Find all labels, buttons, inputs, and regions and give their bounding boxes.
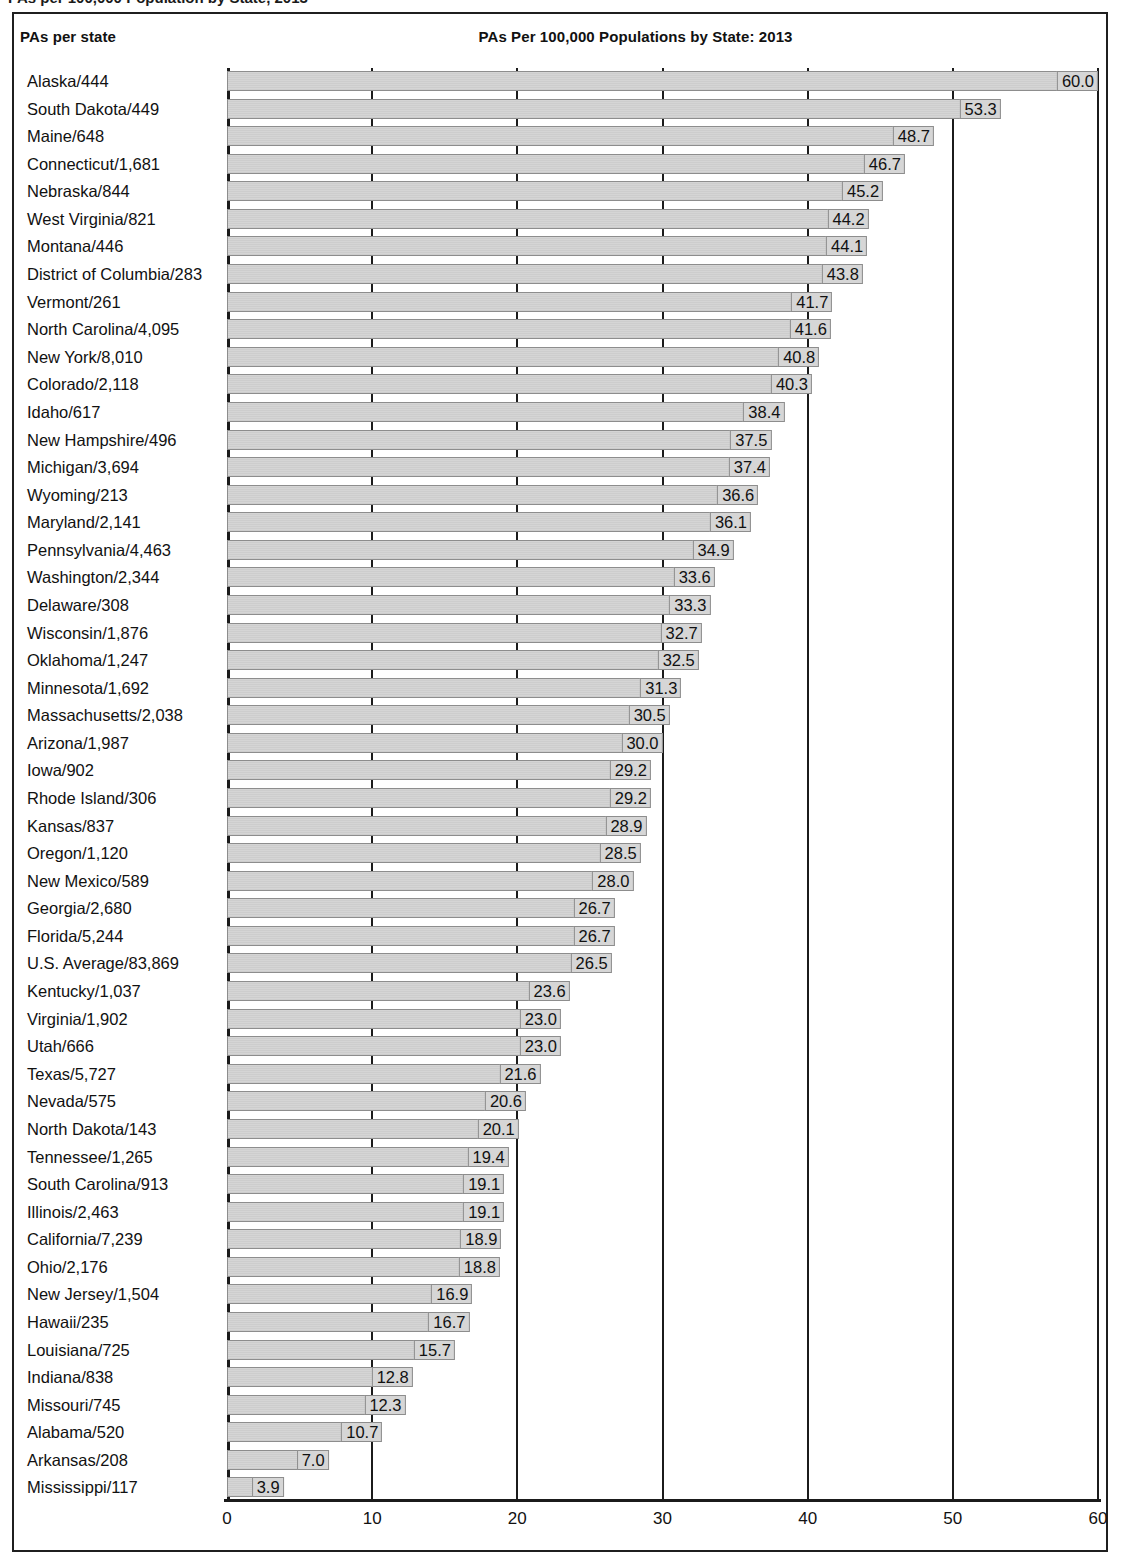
bar-value-label: 12.8 <box>372 1367 413 1387</box>
category-label: Indiana/838 <box>27 1364 113 1392</box>
bar-row: 28.0 <box>227 868 1098 896</box>
bar-row: 28.5 <box>227 840 1098 868</box>
bar-row: 53.3 <box>227 96 1098 124</box>
bar <box>227 595 710 615</box>
bar-row: 30.5 <box>227 702 1098 730</box>
bar-row: 20.6 <box>227 1088 1098 1116</box>
bar-value-label: 53.3 <box>960 99 1001 119</box>
bar-rows: 60.053.348.746.745.244.244.143.841.741.6… <box>227 68 1098 1502</box>
bar-row: 19.1 <box>227 1171 1098 1199</box>
category-label: District of Columbia/283 <box>27 261 202 289</box>
bar-row: 16.7 <box>227 1309 1098 1337</box>
bar <box>227 981 570 1001</box>
bar <box>227 430 771 450</box>
bar <box>227 540 734 560</box>
bar-row: 33.6 <box>227 564 1098 592</box>
bar-row: 23.0 <box>227 1033 1098 1061</box>
bar-row: 29.2 <box>227 757 1098 785</box>
category-label: Hawaii/235 <box>27 1309 109 1337</box>
bar-value-label: 38.4 <box>743 402 784 422</box>
bar-row: 10.7 <box>227 1419 1098 1447</box>
category-label: Ohio/2,176 <box>27 1254 108 1282</box>
bar <box>227 788 651 808</box>
category-label: Kentucky/1,037 <box>27 978 141 1006</box>
category-label: Wyoming/213 <box>27 482 128 510</box>
bar <box>227 760 651 780</box>
bar <box>227 926 615 946</box>
category-label: Kansas/837 <box>27 813 114 841</box>
category-label: Alabama/520 <box>27 1419 124 1447</box>
bar-value-label: 15.7 <box>414 1340 455 1360</box>
category-label: Washington/2,344 <box>27 564 159 592</box>
bar <box>227 1147 509 1167</box>
bar-value-label: 19.4 <box>467 1147 508 1167</box>
bar-row: 19.4 <box>227 1144 1098 1172</box>
category-label: Oklahoma/1,247 <box>27 647 148 675</box>
bar-row: 21.6 <box>227 1061 1098 1089</box>
category-label: Virginia/1,902 <box>27 1006 128 1034</box>
x-tick-label: 50 <box>943 1509 962 1529</box>
bar-value-label: 43.8 <box>822 264 863 284</box>
bar <box>227 71 1098 91</box>
bar-value-label: 32.7 <box>661 623 702 643</box>
category-label-column: Alaska/444South Dakota/449Maine/648Conne… <box>0 68 227 1502</box>
category-label: Montana/446 <box>27 233 123 261</box>
bar <box>227 99 1001 119</box>
bar <box>227 347 819 367</box>
bar <box>227 650 699 670</box>
bar-row: 15.7 <box>227 1337 1098 1365</box>
bar <box>227 1091 526 1111</box>
bar-row: 18.9 <box>227 1226 1098 1254</box>
category-label: Iowa/902 <box>27 757 94 785</box>
bar-row: 40.3 <box>227 371 1098 399</box>
bar-row: 48.7 <box>227 123 1098 151</box>
x-tick-label: 20 <box>508 1509 527 1529</box>
bar-value-label: 46.7 <box>864 154 905 174</box>
x-tick-label: 10 <box>363 1509 382 1529</box>
bar <box>227 154 905 174</box>
category-label: Arkansas/208 <box>27 1447 128 1475</box>
x-axis-line <box>224 1499 1101 1502</box>
bar <box>227 953 612 973</box>
bar-row: 34.9 <box>227 537 1098 565</box>
category-label: Vermont/261 <box>27 289 121 317</box>
category-label: North Carolina/4,095 <box>27 316 179 344</box>
bar-row: 36.1 <box>227 509 1098 537</box>
bar-value-label: 20.6 <box>485 1091 526 1111</box>
category-label: Missouri/745 <box>27 1392 121 1420</box>
bar <box>227 843 641 863</box>
bar-row: 20.1 <box>227 1116 1098 1144</box>
bar <box>227 292 832 312</box>
bar-row: 32.5 <box>227 647 1098 675</box>
bar <box>227 567 715 587</box>
bar-row: 23.6 <box>227 978 1098 1006</box>
category-label: Nevada/575 <box>27 1088 116 1116</box>
bar-row: 37.4 <box>227 454 1098 482</box>
bar <box>227 319 831 339</box>
bar-row: 31.3 <box>227 675 1098 703</box>
bar <box>227 1119 519 1139</box>
bar-value-label: 19.1 <box>463 1202 504 1222</box>
bar-row: 46.7 <box>227 151 1098 179</box>
bar-row: 36.6 <box>227 482 1098 510</box>
bar-row: 60.0 <box>227 68 1098 96</box>
category-label: Maryland/2,141 <box>27 509 141 537</box>
category-label: West Virginia/821 <box>27 206 156 234</box>
category-label: South Dakota/449 <box>27 96 159 124</box>
x-tick-label: 40 <box>798 1509 817 1529</box>
category-label: California/7,239 <box>27 1226 143 1254</box>
category-label: New Jersey/1,504 <box>27 1281 159 1309</box>
bar-value-label: 32.5 <box>658 650 699 670</box>
bar-row: 43.8 <box>227 261 1098 289</box>
bar-value-label: 36.6 <box>717 485 758 505</box>
x-tick-label: 0 <box>222 1509 231 1529</box>
bar-row: 12.3 <box>227 1392 1098 1420</box>
bar <box>227 402 784 422</box>
bar-value-label: 16.7 <box>428 1312 469 1332</box>
bar <box>227 485 758 505</box>
category-label: Michigan/3,694 <box>27 454 139 482</box>
bar-row: 30.0 <box>227 730 1098 758</box>
category-label: Utah/666 <box>27 1033 94 1061</box>
bar-value-label: 34.9 <box>693 540 734 560</box>
bar-value-label: 16.9 <box>431 1284 472 1304</box>
